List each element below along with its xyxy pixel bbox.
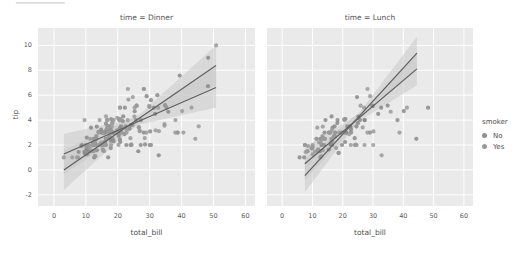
facet-title-lunch: time = Lunch [267, 13, 473, 22]
x-axis-label-dinner: total_bill [38, 228, 255, 237]
y-axis-label: tip [11, 95, 20, 135]
y-tick-label: -2 [10, 191, 32, 199]
seaborn-lmplot-figure: time = Dinner time = Lunch -20246810 010… [0, 0, 532, 264]
x-tick-label: 0 [270, 212, 294, 220]
scatter-regression-layer-dinner [38, 28, 255, 206]
x-tick-label: 0 [42, 212, 66, 220]
y-tick-label: 10 [10, 41, 32, 49]
legend: smoker NoYes [482, 118, 530, 152]
facet-title-dinner: time = Dinner [38, 13, 255, 22]
x-tick-label: 10 [300, 212, 324, 220]
x-tick-label: 20 [106, 212, 130, 220]
legend-marker-icon [482, 133, 487, 138]
x-axis-label-lunch: total_bill [267, 228, 473, 237]
legend-title: smoker [482, 118, 530, 126]
y-tick-label: 8 [10, 66, 32, 74]
legend-item-yes[interactable]: Yes [482, 141, 530, 152]
plot-panel-dinner [38, 28, 255, 206]
x-tick-label: 10 [74, 212, 98, 220]
legend-marker-icon [482, 144, 487, 149]
legend-entries: NoYes [482, 130, 530, 152]
scatter-regression-layer-lunch [267, 28, 473, 206]
x-tick-label: 60 [452, 212, 476, 220]
legend-item-label: No [493, 132, 503, 140]
plot-panel-lunch [267, 28, 473, 206]
x-tick-label: 50 [422, 212, 446, 220]
x-tick-label: 20 [331, 212, 355, 220]
y-tick-label: 0 [10, 166, 32, 174]
x-tick-label: 30 [361, 212, 385, 220]
x-tick-label: 60 [233, 212, 257, 220]
legend-item-label: Yes [493, 143, 504, 151]
x-tick-label: 50 [202, 212, 226, 220]
x-tick-label: 30 [138, 212, 162, 220]
y-tick-label: 2 [10, 141, 32, 149]
x-tick-label: 40 [170, 212, 194, 220]
legend-item-no[interactable]: No [482, 130, 530, 141]
x-tick-label: 40 [391, 212, 415, 220]
